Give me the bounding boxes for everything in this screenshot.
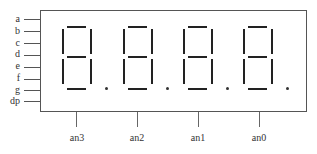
segment-a [128,26,147,28]
segment-f [183,29,185,54]
anode-line-an2 [137,112,138,127]
anode-line-an0 [259,112,260,127]
anode-line-an3 [76,112,77,127]
pin-label-b: b [2,26,20,36]
anode-line-an1 [198,112,199,127]
pin-line-dp [24,101,40,102]
segment-d [248,88,267,90]
segment-b [211,29,213,54]
segment-a [67,26,86,28]
pin-line-g [24,90,40,91]
segment-g [188,56,207,58]
segment-c [151,59,153,84]
segment-c [211,59,213,84]
pin-label-c: c [2,38,20,48]
segment-d [128,88,147,90]
anode-label-an3: an3 [62,133,92,143]
anode-label-an1: an1 [183,133,213,143]
segment-g [128,56,147,58]
segment-dp [166,87,169,90]
digit-an3 [62,26,94,90]
segment-a [248,26,267,28]
segment-e [183,59,185,84]
segment-d [188,88,207,90]
segment-f [243,29,245,54]
pin-label-g: g [2,85,20,95]
segment-g [67,56,86,58]
pin-label-e: e [2,61,20,71]
segment-e [243,59,245,84]
segment-a [188,26,207,28]
pin-line-a [24,19,40,20]
digit-an2 [123,26,155,90]
segment-dp [105,87,108,90]
pin-label-f: f [2,73,20,83]
segment-b [90,29,92,54]
pin-label-dp: dp [2,96,20,106]
digit-an1 [183,26,215,90]
segment-b [151,29,153,54]
pin-label-d: d [2,49,20,59]
anode-label-an0: an0 [244,133,274,143]
segment-c [271,59,273,84]
pin-line-e [24,67,40,68]
segment-c [90,59,92,84]
segment-e [123,59,125,84]
segment-e [62,59,64,84]
segment-d [67,88,86,90]
segment-dp [286,87,289,90]
pin-line-b [24,31,40,32]
pin-label-a: a [2,14,20,24]
segment-dp [226,87,229,90]
pin-line-d [24,55,40,56]
segment-g [248,56,267,58]
segment-b [271,29,273,54]
digit-an0 [243,26,275,90]
segment-f [62,29,64,54]
segment-f [123,29,125,54]
anode-label-an2: an2 [122,133,152,143]
pin-line-f [24,79,40,80]
pin-line-c [24,43,40,44]
